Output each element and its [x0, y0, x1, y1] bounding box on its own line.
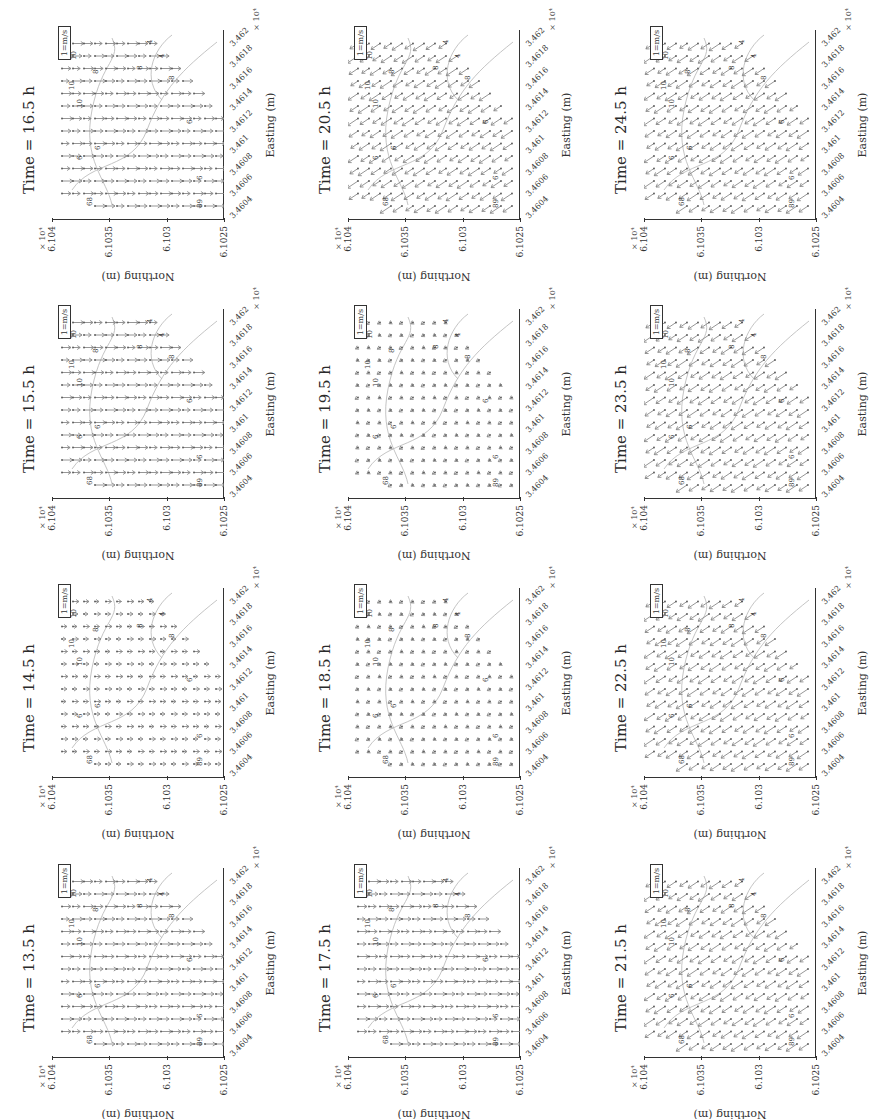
plot-area: 121010108886666446889 × 10⁴ × 10⁴ Northi…	[52, 588, 224, 778]
panel-p21_5: Time = 21.5 h 121010108886666446889 × 10…	[594, 840, 886, 1116]
x-multiplier: × 10⁴	[844, 846, 853, 869]
svg-text:6: 6	[94, 424, 102, 429]
y-tick-label: 6.1035	[400, 226, 410, 258]
x-tick-label: 3.4608	[228, 989, 254, 1015]
x-tick-label: 3.4604	[228, 752, 254, 778]
y-tick-label: 6.1035	[696, 784, 706, 816]
svg-text:4: 4	[738, 877, 746, 882]
x-tick-label: 3.4614	[524, 925, 550, 951]
y-multiplier: × 10⁴	[334, 1065, 343, 1088]
svg-text:4: 4	[750, 53, 758, 58]
y-tick-label: 6.104	[343, 505, 353, 531]
x-tick-label: 3.4614	[820, 366, 846, 392]
y-tick-label: 6.104	[47, 505, 57, 531]
x-axis-label: Easting (m)	[264, 30, 277, 220]
vector-field: 121010108886666446889	[52, 309, 224, 499]
x-tick-label: 3.4608	[820, 709, 846, 735]
svg-text:6: 6	[788, 733, 796, 738]
y-tick-label: 6.104	[639, 1064, 649, 1090]
quiver-panel: Time = 22.5 h 121010108886666446889 × 10…	[594, 560, 886, 836]
x-multiplier: × 10⁴	[548, 8, 557, 31]
y-tick-label: 6.1035	[104, 784, 114, 816]
scale-legend: 1=m/s	[650, 584, 663, 618]
x-axis-label: Easting (m)	[264, 309, 277, 499]
svg-text:8: 8	[388, 908, 396, 912]
svg-text:8: 8	[136, 345, 144, 349]
svg-text:10: 10	[366, 51, 374, 60]
svg-text:10: 10	[366, 609, 374, 618]
panel-p16_5: Time = 16.5 h 121010108886666446889 × 10…	[2, 2, 294, 278]
y-tick-label: 6.103	[754, 784, 764, 810]
svg-text:8: 8	[464, 76, 472, 80]
x-tick-label: 3.4618	[228, 44, 254, 70]
y-tick-label: 6.1035	[696, 505, 706, 537]
y-tick-label: 6.104	[639, 226, 649, 252]
vector-field: 121010108886666446889	[644, 588, 816, 778]
quiver-panel: Time = 14.5 h 121010108886666446889 × 10…	[2, 560, 294, 836]
svg-text:4: 4	[442, 877, 450, 882]
panel-p18_5: Time = 18.5 h 121010108886666446889 × 10…	[298, 560, 590, 836]
svg-text:10: 10	[364, 919, 372, 928]
x-tick-label: 3.4618	[524, 44, 550, 70]
y-tick-label: 6.104	[47, 1064, 57, 1090]
svg-text:10: 10	[660, 360, 668, 369]
scale-legend: 1=m/s	[650, 305, 663, 339]
svg-text:6: 6	[482, 398, 490, 403]
y-tick-label: 6.103	[754, 1064, 764, 1090]
scale-legend: 1=m/s	[58, 584, 71, 618]
svg-text:89: 89	[492, 1037, 500, 1046]
y-tick-label: 6.1025	[219, 505, 229, 537]
scale-legend: 1=m/s	[58, 864, 71, 898]
y-tick-label: 6.1035	[400, 1064, 410, 1096]
plot-area: 121010108886666446889 × 10⁴ × 10⁴ Northi…	[52, 868, 224, 1058]
y-multiplier: × 10⁴	[38, 506, 47, 529]
svg-text:68: 68	[86, 1035, 94, 1044]
x-tick-label: 3.4616	[820, 344, 846, 370]
svg-text:10: 10	[366, 330, 374, 339]
svg-text:89: 89	[492, 478, 500, 487]
svg-text:6: 6	[390, 145, 398, 150]
x-tick-label: 3.4604	[228, 1032, 254, 1058]
vector-field: 121010108886666446889	[52, 868, 224, 1058]
svg-text:10: 10	[662, 51, 670, 60]
y-tick-label: 6.103	[162, 784, 172, 810]
svg-text:6: 6	[372, 155, 380, 160]
svg-text:8: 8	[168, 355, 176, 359]
y-tick-label: 6.103	[458, 505, 468, 531]
svg-text:8: 8	[388, 628, 396, 632]
x-tick-label: 3.4604	[524, 752, 550, 778]
x-tick-label: 3.4608	[228, 430, 254, 456]
x-tick-label: 3.4608	[820, 430, 846, 456]
panel-title: Time = 21.5 h	[612, 840, 630, 1116]
svg-text:6: 6	[778, 957, 786, 962]
svg-text:10: 10	[366, 889, 374, 898]
svg-text:8: 8	[684, 908, 692, 912]
svg-text:4: 4	[158, 332, 166, 337]
svg-text:6: 6	[686, 424, 694, 429]
y-tick-label: 6.1025	[219, 1064, 229, 1096]
x-tick-label: 3.4604	[228, 473, 254, 499]
y-tick-label: 6.104	[639, 505, 649, 531]
svg-text:8: 8	[728, 345, 736, 349]
svg-text:4: 4	[454, 611, 462, 616]
svg-text:10: 10	[76, 937, 84, 946]
x-axis-label: Easting (m)	[560, 868, 573, 1058]
svg-text:8: 8	[684, 628, 692, 632]
panel-p19_5: Time = 19.5 h 121010108886666446889 × 10…	[298, 281, 590, 557]
svg-text:10: 10	[76, 99, 84, 108]
svg-text:4: 4	[750, 611, 758, 616]
svg-text:6: 6	[94, 983, 102, 988]
x-tick-label: 3.4604	[820, 752, 846, 778]
y-tick-label: 6.1035	[696, 1064, 706, 1096]
svg-text:10: 10	[364, 81, 372, 90]
svg-text:68: 68	[86, 476, 94, 485]
x-axis-label: Easting (m)	[560, 30, 573, 220]
plot-area: 121010108886666446889 × 10⁴ × 10⁴ Northi…	[52, 309, 224, 499]
svg-text:68: 68	[678, 197, 686, 206]
svg-text:68: 68	[678, 1035, 686, 1044]
svg-text:6: 6	[76, 993, 84, 998]
x-tick-label: 3.4608	[820, 989, 846, 1015]
y-tick-label: 6.1035	[104, 505, 114, 537]
svg-text:8: 8	[92, 908, 100, 912]
svg-text:6: 6	[668, 713, 676, 718]
